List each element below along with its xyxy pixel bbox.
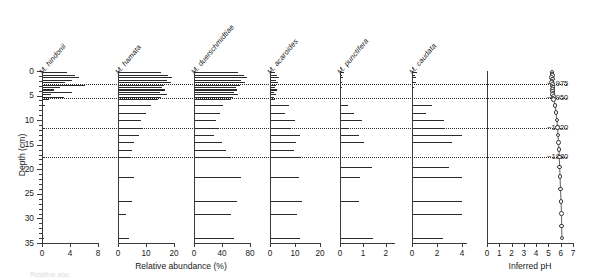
abundance-bar xyxy=(119,157,130,158)
abundance-bar xyxy=(119,77,172,78)
abundance-bar xyxy=(413,120,444,121)
abundance-bar xyxy=(119,97,161,98)
panel-x-tick-label: 0 xyxy=(328,249,352,258)
panel-x-tick xyxy=(363,243,364,247)
abundance-bar xyxy=(271,120,295,121)
panel-x-tick xyxy=(295,243,296,247)
abundance-bar xyxy=(271,142,296,143)
ph-x-tick xyxy=(536,243,537,247)
panel-x-tick xyxy=(174,243,175,247)
abundance-bar xyxy=(195,113,220,114)
panel-x-tick-label: 40 xyxy=(210,249,234,258)
abundance-bar xyxy=(195,128,219,129)
abundance-bar xyxy=(341,238,373,239)
abundance-bar xyxy=(413,128,444,129)
abundance-bar xyxy=(341,105,348,106)
abundance-bar xyxy=(119,113,146,114)
abundance-bar xyxy=(195,201,237,202)
abundance-bar xyxy=(119,214,126,215)
abundance-bar xyxy=(119,89,165,90)
abundance-bar xyxy=(195,75,244,76)
abundance-bar xyxy=(413,87,414,88)
panel-x-tick-label: 1 xyxy=(351,249,375,258)
abundance-bar xyxy=(119,105,151,106)
ph-data-point xyxy=(559,211,564,216)
ph-data-point xyxy=(558,187,563,192)
abundance-bar xyxy=(195,89,237,90)
abundance-bar xyxy=(271,128,291,129)
panel-x-tick-label: 2 xyxy=(425,249,449,258)
abundance-bar xyxy=(341,167,372,168)
panel-x-tick-label: 0 xyxy=(182,249,206,258)
panel-baseline-axis xyxy=(412,71,413,243)
abundance-bar xyxy=(413,214,462,215)
abundance-bar xyxy=(413,135,462,136)
panel-x-tick-label: 10 xyxy=(283,249,307,258)
ph-data-point xyxy=(557,155,562,160)
abundance-bar xyxy=(119,142,134,143)
abundance-bar xyxy=(271,214,297,215)
abundance-bar xyxy=(341,113,354,114)
abundance-bar xyxy=(195,92,234,93)
panel-x-tick-label: 0 xyxy=(258,249,282,258)
ph-data-point xyxy=(556,133,561,138)
abundance-bar xyxy=(119,135,139,136)
abundance-bar xyxy=(341,72,344,73)
panel-x-tick xyxy=(462,243,463,247)
panel-x-tick-label: 4 xyxy=(58,249,82,258)
ph-x-tick xyxy=(524,243,525,247)
abundance-bar xyxy=(413,113,426,114)
abundance-bar xyxy=(413,77,416,78)
abundance-bar xyxy=(195,214,231,215)
panel-x-tick xyxy=(412,243,413,247)
abundance-bar xyxy=(195,177,241,178)
ph-x-tick-label: 7 xyxy=(566,249,580,258)
abundance-bar xyxy=(43,238,44,239)
panel-x-tick xyxy=(146,243,147,247)
ph-x-tick xyxy=(487,243,488,247)
abundance-bar xyxy=(413,201,462,202)
abundance-bar xyxy=(271,94,276,95)
ph-data-point xyxy=(554,110,559,115)
abundance-bar xyxy=(271,85,276,86)
abundance-bar xyxy=(119,150,132,151)
panel-x-tick xyxy=(386,243,387,247)
abundance-bar xyxy=(119,85,164,86)
panel-x-tick xyxy=(118,243,119,247)
abundance-bar xyxy=(271,150,294,151)
abundance-bar xyxy=(271,238,300,239)
abundance-bar xyxy=(341,128,349,129)
abundance-bar xyxy=(43,87,60,88)
abundance-bar xyxy=(271,99,275,100)
abundance-bar xyxy=(271,177,299,178)
abundance-bar xyxy=(43,72,67,73)
panel-baseline-axis xyxy=(340,71,341,243)
depth-tick-label: 35 xyxy=(14,238,34,248)
abundance-bar xyxy=(271,135,300,136)
abundance-bar xyxy=(271,201,302,202)
abundance-bar xyxy=(119,128,143,129)
abundance-bar xyxy=(195,97,233,98)
abundance-bar xyxy=(43,82,65,83)
abundance-bar xyxy=(195,80,241,81)
panel-x-tick-label: 0 xyxy=(106,249,130,258)
abundance-bar xyxy=(119,72,161,73)
ph-x-tick xyxy=(512,243,513,247)
abundance-bar xyxy=(43,157,44,158)
abundance-bar xyxy=(195,150,226,151)
ph-data-point xyxy=(555,125,560,130)
panel-x-tick xyxy=(270,243,271,247)
abundance-bar xyxy=(341,201,359,202)
abundance-bar xyxy=(413,105,432,106)
abundance-bar xyxy=(195,82,245,83)
ph-data-point xyxy=(556,140,561,145)
panel-bottom-axis xyxy=(412,243,467,244)
abundance-bar xyxy=(271,77,279,78)
abundance-bar xyxy=(43,97,64,98)
abundance-bar xyxy=(341,135,359,136)
abundance-bar xyxy=(271,92,274,93)
abundance-bar xyxy=(43,85,85,86)
depth-tick-label: 0 xyxy=(14,66,34,76)
ph-data-point xyxy=(560,236,565,241)
abundance-bar xyxy=(271,157,301,158)
